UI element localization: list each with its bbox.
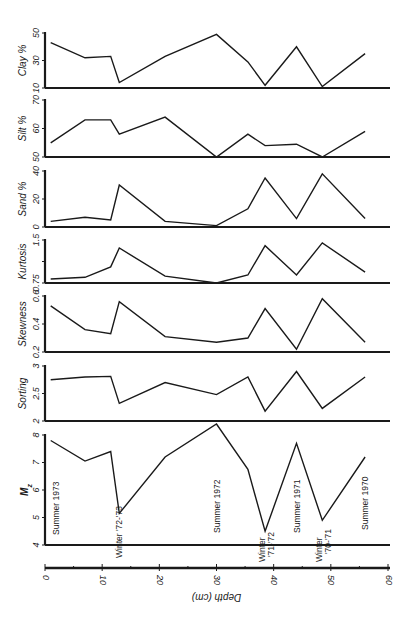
y-axis-title: Silt % — [17, 116, 28, 142]
y-tick-label: 6 — [31, 487, 41, 492]
stacked-depth-profile-chart: 103050Clay %506070Silt %02040Sand %0.751… — [0, 0, 414, 618]
y-axis-title: Sand % — [17, 181, 28, 216]
data-line-silt — [51, 117, 365, 157]
y-tick-label: 0.6 — [31, 290, 41, 303]
x-tick-label: 20 — [155, 574, 165, 585]
y-tick-label: 7 — [31, 459, 41, 465]
y-tick-label: 5 — [31, 514, 41, 520]
chart-canvas: 103050Clay %506070Silt %02040Sand %0.751… — [0, 0, 414, 618]
season-label: Summer 1970 — [360, 476, 370, 530]
data-line-skewness — [51, 299, 365, 349]
y-axis-title: Sorting — [17, 377, 28, 409]
y-tick-label: 10 — [31, 83, 41, 93]
x-tick-label: 30 — [212, 575, 222, 585]
season-label: Winter '72-'73 — [114, 506, 124, 558]
y-tick-label: 2.5 — [31, 386, 41, 401]
season-label: '71-'72 — [266, 532, 276, 557]
y-tick-label: 1.5 — [31, 233, 41, 247]
data-line-clay — [51, 34, 365, 86]
y-tick-label: 60 — [31, 123, 41, 133]
data-line-kurtosis — [51, 243, 365, 283]
season-label: Summer 1971 — [292, 479, 302, 533]
y-tick-label: 3 — [31, 363, 41, 368]
season-label: Summer 1973 — [51, 481, 61, 535]
y-tick-label: 0.4 — [31, 318, 41, 331]
y-tick-label: 2 — [31, 418, 41, 424]
panel-silt: 506070Silt % — [17, 95, 390, 162]
panel-sand: 02040Sand % — [17, 166, 390, 230]
y-axis-title: Clay % — [17, 45, 28, 77]
panel-clay: 103050Clay % — [17, 28, 390, 93]
panel-sorting: 22.53Sorting — [17, 363, 390, 424]
y-tick-label: 0.75 — [31, 273, 41, 292]
y-tick-label: 0.2 — [31, 346, 41, 359]
x-axis-title: Depth (cm) — [192, 592, 241, 603]
y-tick-label: 8 — [31, 432, 41, 437]
y-tick-label: 30 — [31, 55, 41, 65]
data-line-mz — [51, 424, 365, 531]
y-axis-title: Skewness — [17, 301, 28, 347]
season-label: Summer 1972 — [212, 479, 222, 533]
panel-mz: 45678Mz — [19, 424, 390, 548]
y-tick-label: 4 — [31, 542, 41, 547]
panel-kurtosis: 0.751.5Kurtosis — [17, 233, 390, 292]
x-tick-label: 50 — [326, 575, 336, 585]
x-tick-label: 10 — [98, 575, 108, 585]
x-tick-label: 60 — [384, 575, 394, 585]
x-tick-label: 40 — [269, 575, 279, 585]
y-tick-label: 20 — [31, 194, 41, 205]
y-tick-label: 70 — [31, 95, 41, 105]
x-tick-label: 0 — [41, 575, 51, 580]
panel-skewness: 0.20.40.6Skewness — [17, 290, 390, 359]
x-axis: 0102030405060Depth (cm) — [41, 564, 394, 603]
y-tick-label: 0 — [31, 224, 41, 229]
data-line-sand — [51, 174, 365, 226]
season-label: '70-'71 — [323, 529, 333, 554]
y-tick-label: 40 — [31, 166, 41, 176]
y-tick-label: 50 — [31, 28, 41, 38]
y-axis-title: Kurtosis — [17, 243, 28, 279]
data-line-sorting — [51, 372, 365, 412]
y-tick-label: 50 — [31, 152, 41, 162]
